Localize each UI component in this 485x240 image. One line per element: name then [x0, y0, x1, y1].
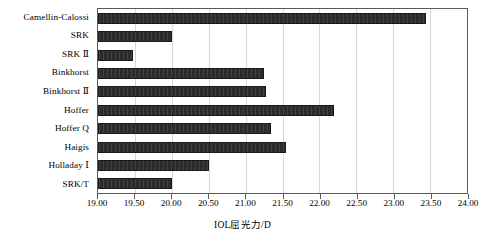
axis-tick-label: 24.00 [458, 199, 479, 208]
category-label: SRK Ⅱ [0, 45, 93, 64]
axis-tick-label: 19.00 [87, 199, 108, 208]
bar [98, 123, 271, 134]
bar-row [98, 119, 467, 137]
axis-tick-label: 22.50 [346, 199, 367, 208]
bar-row [98, 83, 467, 101]
category-label: Binkhorst Ⅱ [0, 82, 93, 101]
bar [98, 31, 172, 42]
x-axis-title: IOL屈光力/D [0, 217, 485, 231]
bar [98, 13, 426, 24]
bar-row [98, 46, 467, 64]
bar-row [98, 175, 467, 193]
bar [98, 160, 209, 171]
bar [98, 105, 334, 116]
bar-row [98, 101, 467, 119]
category-label: SRK [0, 27, 93, 46]
bar [98, 86, 266, 97]
axis-tick-label: 23.50 [421, 199, 442, 208]
axis-tick-label: 21.00 [235, 199, 256, 208]
category-label: Camellin-Calossi [0, 8, 93, 27]
bar [98, 142, 286, 153]
axis-tick-label: 20.50 [198, 199, 219, 208]
bar-row [98, 64, 467, 82]
axis-tick-label: 23.00 [383, 199, 404, 208]
axis-tick-label: 19.50 [124, 199, 145, 208]
bar [98, 68, 264, 79]
bar [98, 178, 172, 189]
category-label: Binkhorst [0, 64, 93, 83]
bar [98, 50, 133, 61]
plot-area [97, 8, 468, 194]
bar-chart: Camellin-CalossiSRKSRK ⅡBinkhorstBinkhor… [0, 0, 485, 240]
axis-tick-label: 20.00 [161, 199, 182, 208]
bar-row [98, 138, 467, 156]
bar-series [98, 9, 467, 193]
category-label: Hoffer [0, 101, 93, 120]
category-label: Holladay Ⅰ [0, 157, 93, 176]
bar-row [98, 9, 467, 27]
category-label: Hoffer Q [0, 120, 93, 139]
category-axis-labels: Camellin-CalossiSRKSRK ⅡBinkhorstBinkhor… [0, 8, 93, 194]
axis-tick-label: 22.00 [309, 199, 330, 208]
x-axis-tick-labels: 19.0019.5020.0020.5021.0021.5022.0022.50… [0, 199, 485, 215]
category-label: SRK/T [0, 175, 93, 194]
bar-row [98, 156, 467, 174]
bar-row [98, 27, 467, 45]
axis-tick-label: 21.50 [272, 199, 293, 208]
category-label: Haigis [0, 138, 93, 157]
